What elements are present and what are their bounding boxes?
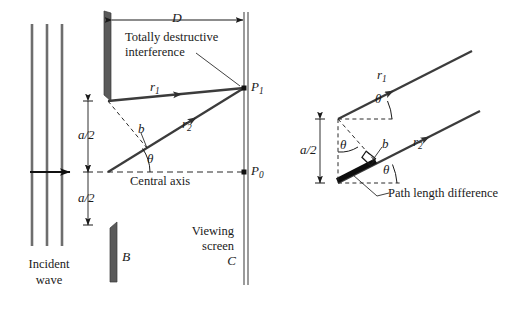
- screen-letter-C: C: [166, 254, 236, 269]
- pld-leader-line: [353, 175, 389, 196]
- ray-r2: [108, 88, 244, 172]
- incident-wave-line-1: Incident: [8, 257, 90, 271]
- barrier-letter-B: B: [122, 249, 130, 264]
- half-width-bottom-label: a/2: [78, 191, 100, 206]
- angle-theta-middle: θ: [340, 138, 346, 153]
- annotation-line-1: Totally destructive: [125, 30, 218, 44]
- path-length-difference-label: Path length difference: [388, 186, 498, 200]
- angle-theta-lower: θ: [383, 163, 389, 178]
- angle-theta-upper: θ: [375, 92, 381, 107]
- viewing-screen: [244, 12, 248, 285]
- bottom-barrier-slab: [110, 222, 117, 282]
- half-width-label-detail: a/2: [300, 143, 317, 158]
- distance-D-label: D: [172, 10, 182, 25]
- incident-wave-line-2: wave: [8, 273, 90, 287]
- segment-b-label-left: b: [138, 122, 145, 137]
- ray-r2-label: r2: [182, 117, 192, 133]
- ray-r2-detail: [338, 111, 480, 183]
- angle-theta-label-left: θ: [147, 152, 153, 167]
- physics-figure: D Totally destructive interference r1 r2…: [0, 0, 521, 309]
- ray-r1-label-detail: r1: [377, 68, 387, 84]
- point-P0-label: P0: [251, 164, 264, 180]
- aperture-dimension-lines: [83, 101, 93, 225]
- viewing-screen-line-2: screen: [166, 239, 234, 253]
- path-length-difference-segment: [336, 158, 377, 183]
- top-barrier-slab: [104, 11, 111, 101]
- ray-r2-label-detail: r2: [413, 135, 423, 151]
- central-axis-label: Central axis: [130, 174, 190, 188]
- ray-r1: [108, 88, 244, 101]
- ray-r1-label: r1: [150, 80, 160, 96]
- ray-r1-detail: [338, 51, 472, 119]
- half-width-top-label: a/2: [78, 128, 100, 143]
- annotation-leader-line: [196, 53, 240, 86]
- viewing-screen-line-1: Viewing: [166, 224, 234, 238]
- b-leader-line-right: [372, 147, 382, 161]
- incident-wavefronts: [32, 24, 62, 246]
- annotation-line-2: interference: [125, 45, 185, 59]
- point-P1-label: P1: [251, 80, 264, 96]
- segment-b-label-right: b: [382, 137, 389, 152]
